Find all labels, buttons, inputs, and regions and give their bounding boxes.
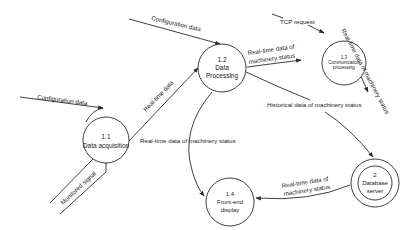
datastore-2-name-2: server <box>367 188 384 194</box>
label-config-1-2: Configuration data <box>151 14 202 32</box>
process-1-2-id: 1.2 <box>217 56 226 63</box>
label-tcp-request: TCP request <box>280 18 315 25</box>
process-1-2-name-2: Processing <box>206 72 239 80</box>
label-config-1-1: Configuration data <box>37 93 89 106</box>
flow-historical-1-2-to-2 <box>246 72 310 100</box>
label-realtime-1-1: Real-time data <box>142 78 175 112</box>
label-historical: Historical data of machinery status <box>267 101 362 108</box>
process-1-4-id: 1.4 <box>226 191 235 197</box>
flow-realtime-1-1-to-1-2 <box>128 68 198 142</box>
process-1-1-id: 1.1 <box>101 133 110 140</box>
process-1-4-name-2: display <box>221 207 240 213</box>
process-1-3-name-2: processing <box>333 65 355 70</box>
data-flow-diagram: 1.1 Data acquisition 1.2 Data Processing… <box>0 0 419 230</box>
process-1-1-name: Data acquisition <box>83 142 130 150</box>
label-1-2-to-1-4: Real-time data of machinery status <box>140 137 236 144</box>
datastore-2-name-1: Database <box>362 180 388 186</box>
process-1-2-name-1: Data <box>215 64 229 71</box>
process-1-1 <box>83 117 129 163</box>
process-1-4-name-1: Front-end <box>217 199 243 205</box>
flow-1-2-to-1-4 <box>189 92 212 196</box>
